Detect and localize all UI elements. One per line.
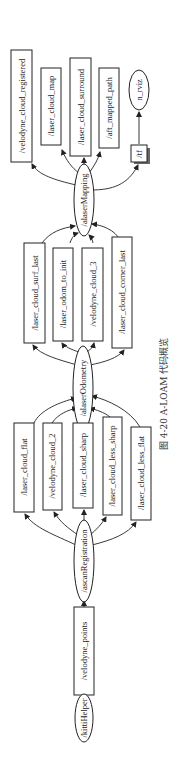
edge-odom-to-init (62, 343, 79, 352)
node-scan-registration[interactable]: /ascanRegistration (74, 520, 94, 602)
topic-label: /laser_odom_to_init (58, 259, 68, 328)
node-label: /ascanRegistration (79, 529, 89, 593)
edge-cloud3-mapping (89, 235, 93, 243)
topic-label: /aft_mapped_path (104, 77, 114, 139)
topic-label: /laser_cloud_surround (76, 68, 86, 145)
topic-laser-cloud-flat[interactable]: /laser_cloud_flat (14, 423, 34, 512)
node-graph-diagram: /velodyne_cloud_registered /laser_cloud_… (0, 0, 179, 783)
figure-caption: 图 4-20 A-LOAM 代码概览 (158, 338, 169, 450)
edge-odom-init-mapping (70, 233, 78, 243)
topic-label: /velodyne_cloud_3 (88, 261, 98, 326)
edge-less-sharp-odom (90, 408, 110, 417)
edge-mapping-registered (32, 164, 76, 185)
edge-cloud2-odom (52, 408, 77, 423)
topic-laser-cloud-map[interactable]: /laser_cloud_map (41, 68, 61, 145)
node-laser-odometry[interactable]: /alaserOdometry (73, 346, 93, 430)
topic-label: /laser_cloud_corner_last (117, 250, 127, 334)
topic-label: /laser_cloud_map (46, 76, 56, 136)
topic-label: /laser_cloud_less_flat (136, 435, 146, 510)
topic-velodyne-points[interactable]: /velodyne_points (74, 607, 94, 695)
edge-odom-surf-last (33, 345, 77, 365)
topic-velodyne-cloud-registered[interactable]: /velodyne_cloud_registered (11, 50, 32, 162)
topic-laser-cloud-surf-last[interactable]: /laser_cloud_surf_last (24, 243, 45, 343)
topic-tf[interactable]: /tf (131, 145, 150, 164)
topic-label: /laser_cloud_surf_last (30, 255, 40, 331)
node-label: /alaserOdometry (78, 359, 88, 416)
topic-label: /laser_cloud_less_sharp (107, 425, 117, 506)
topic-laser-cloud-sharp[interactable]: /laser_cloud_sharp (73, 423, 93, 508)
node-laser-mapping[interactable]: /alaserMapping (74, 164, 94, 236)
topic-aft-mapped-path[interactable]: /aft_mapped_path (99, 68, 119, 148)
topic-laser-cloud-surround[interactable]: /laser_cloud_surround (70, 58, 91, 156)
node-rviz[interactable]: n_rviz (129, 70, 149, 110)
edge-odom-corner-last (90, 350, 124, 365)
topic-laser-cloud-corner-last[interactable]: /laser_cloud_corner_last (112, 237, 132, 348)
edge-mapping-tf (91, 165, 138, 190)
edge-surf-last-mapping (42, 226, 75, 243)
topic-laser-cloud-less-sharp[interactable]: /laser_cloud_less_sharp (103, 417, 122, 515)
topic-laser-cloud-less-flat[interactable]: /laser_cloud_less_flat (131, 427, 151, 520)
node-label: n_rviz (134, 79, 144, 101)
edge-scanreg-less-sharp (90, 517, 106, 535)
node-label: /alaserMapping (79, 173, 89, 227)
edge-scanreg-flat (25, 514, 76, 545)
topic-label: /velodyne_points (79, 622, 89, 681)
topic-velodyne-cloud-3[interactable]: /velodyne_cloud_3 (82, 248, 103, 341)
edge-scanreg-less-flat (92, 522, 136, 545)
topic-velodyne-cloud-2[interactable]: /velodyne_cloud_2 (43, 423, 62, 510)
topic-label: /laser_cloud_sharp (78, 433, 88, 497)
topic-label: /velodyne_cloud_registered (17, 58, 27, 153)
topic-label: /laser_cloud_flat (19, 438, 29, 496)
node-label: /kittiHelper (79, 698, 89, 737)
node-kitti-helper[interactable]: /kittiHelper (75, 694, 93, 742)
topic-label: /tf (134, 150, 144, 158)
edge-scanreg-cloud2 (54, 512, 78, 535)
topic-label: /velodyne_cloud_2 (47, 433, 57, 498)
topic-laser-odom-to-init[interactable]: /laser_odom_to_init (53, 248, 73, 341)
